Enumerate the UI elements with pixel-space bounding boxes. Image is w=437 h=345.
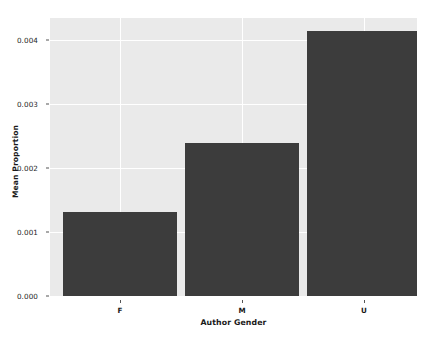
bar-chart-figure: 0.000 0.001 0.002 0.003 0.004 Mean Propo…: [0, 0, 437, 345]
y-tick-label: 0.003: [17, 100, 38, 109]
y-tick-label: 0.002: [17, 164, 38, 173]
x-axis-label: Author Gender: [50, 318, 417, 327]
x-tick-label: U: [361, 306, 367, 315]
y-tick-mark: [46, 296, 49, 297]
y-tick-mark: [46, 232, 49, 233]
bar-M: [185, 143, 299, 296]
y-tick-label: 0.000: [17, 292, 38, 301]
bar-F: [63, 212, 177, 296]
x-tick-mark: [364, 300, 365, 303]
bar-U: [307, 31, 417, 296]
x-tick-label: F: [118, 306, 123, 315]
y-tick-mark: [46, 40, 49, 41]
x-tick-mark: [242, 300, 243, 303]
y-axis-tick-labels: 0.000 0.001 0.002 0.003 0.004: [0, 18, 44, 296]
x-tick-mark: [120, 300, 121, 303]
x-tick-label: M: [238, 306, 245, 315]
x-axis-tick-labels: F M U: [50, 300, 417, 314]
y-tick-label: 0.004: [17, 36, 38, 45]
y-tick-label: 0.001: [17, 228, 38, 237]
y-tick-mark: [46, 168, 49, 169]
plot-area: [50, 18, 417, 296]
y-tick-mark: [46, 104, 49, 105]
y-axis-label: Mean Proportion: [11, 102, 20, 222]
